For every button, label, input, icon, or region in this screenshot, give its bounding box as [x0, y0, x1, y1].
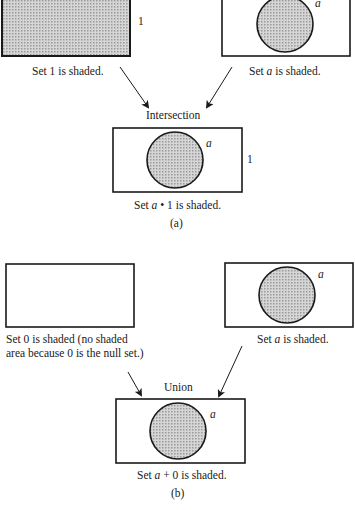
result-a-circle-label: a [206, 137, 212, 149]
set-1-caption: Set 1 is shaded. [32, 65, 104, 77]
set-a-panel-a [222, 0, 350, 56]
arrow-icon [120, 67, 148, 107]
union-title: Union [164, 381, 193, 393]
set-a-label-b: a [318, 268, 324, 280]
set-a-label: a [315, 0, 321, 9]
figure-label-b: (b) [171, 487, 184, 499]
figure-label-a: (a) [170, 217, 183, 229]
set-a-caption: Set a is shaded. [249, 65, 321, 77]
result-b-circle-label: a [210, 408, 216, 420]
set-0-caption-line1: Set 0 is shaded (no shaded [6, 333, 128, 345]
arrow-icon [128, 372, 141, 395]
set-0-panel [6, 264, 134, 327]
arrow-icon [207, 67, 232, 107]
set-a-panel-b [225, 263, 353, 327]
set-0-caption-line2: area because 0 is the null set.) [6, 347, 144, 359]
intersection-result-panel [113, 128, 242, 192]
intersection-title: Intersection [146, 109, 200, 121]
set-a-caption-b: Set a is shaded. [257, 333, 329, 345]
union-caption: Set a + 0 is shaded. [137, 469, 227, 481]
arrow-icon [219, 346, 242, 396]
set-1-panel [2, 0, 130, 56]
intersection-caption: Set a • 1 is shaded. [134, 199, 221, 211]
union-result-panel [116, 399, 245, 463]
result-a-rect-label: 1 [247, 153, 253, 165]
set-1-label: 1 [138, 15, 144, 27]
